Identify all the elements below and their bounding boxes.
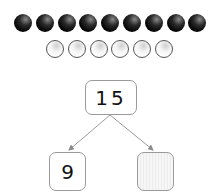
whole-value: 15 [95,86,126,110]
part-right-blank-box[interactable] [137,152,174,191]
arrow-right [110,115,153,150]
part-left-box: 9 [49,152,86,191]
whole-box: 15 [85,80,137,115]
arrow-left [69,115,110,150]
part-left-value: 9 [61,160,74,184]
